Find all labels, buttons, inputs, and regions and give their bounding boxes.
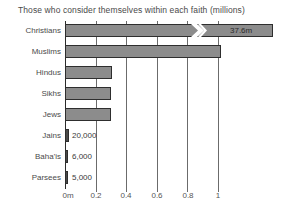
category-axis-labels: Christians Muslims Hindus Sikhs Jews Jai…: [0, 0, 61, 215]
category-label-bahais: Baha'is: [35, 152, 61, 161]
bar-sikhs: [65, 87, 111, 100]
bar-jains: [65, 129, 69, 142]
category-label-christians: Christians: [25, 26, 61, 35]
plot-area: 37.6m 20,000 6,000 5,000: [65, 21, 218, 186]
value-label-jains: 20,000: [72, 131, 96, 140]
value-label-bahais: 6,000: [72, 152, 92, 161]
xtick-label-0.2: 0.2: [90, 191, 101, 200]
xtick-label-0.6: 0.6: [151, 191, 162, 200]
xtick-label-1: 1: [216, 191, 220, 200]
bar-jews: [65, 108, 111, 121]
value-label-parsees: 5,000: [72, 173, 92, 182]
category-label-sikhs: Sikhs: [41, 89, 61, 98]
bar-parsees: [65, 171, 68, 184]
category-label-muslims: Muslims: [32, 47, 61, 56]
xtick-label-0: 0m: [62, 191, 73, 200]
axis-break-icon: [191, 24, 207, 37]
category-label-jews: Jews: [43, 110, 61, 119]
xtick-label-0.8: 0.8: [182, 191, 193, 200]
category-label-jains: Jains: [42, 131, 61, 140]
xtick-label-0.4: 0.4: [120, 191, 131, 200]
bar-bahais: [65, 150, 68, 163]
value-label-christians: 37.6m: [230, 26, 252, 35]
bar-hindus: [65, 66, 112, 79]
category-label-parsees: Parsees: [32, 173, 61, 182]
bar-muslims: [65, 45, 221, 58]
category-label-hindus: Hindus: [36, 68, 61, 77]
chart-screenshot: Those who consider themselves within eac…: [0, 0, 282, 215]
